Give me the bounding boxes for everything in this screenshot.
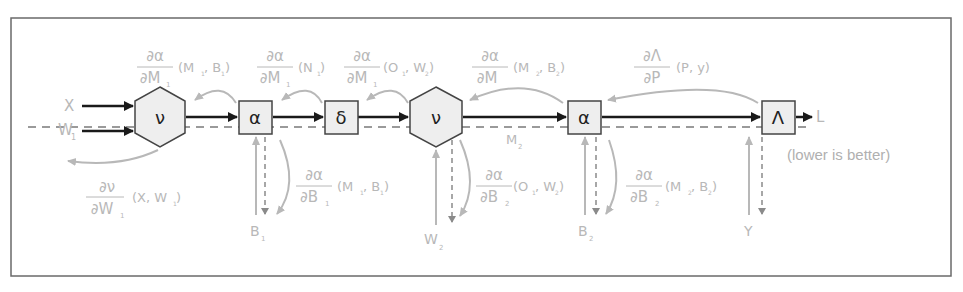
node-lambda-symbol: Λ <box>772 107 785 128</box>
svg-text:∂P: ∂P <box>644 69 661 87</box>
svg-text:∂M: ∂M <box>140 69 161 87</box>
svg-text:∂W: ∂W <box>91 200 114 218</box>
gradient-label-bottom-2: ∂α ∂B 1 (M 1 , B 1 ) <box>296 166 389 208</box>
svg-text:): ) <box>384 179 389 194</box>
svg-text:∂B: ∂B <box>480 188 498 206</box>
svg-text:(M: (M <box>513 60 529 75</box>
svg-text:(M: (M <box>337 179 353 194</box>
backward-arrow-alpha2-to-nu2 <box>470 88 563 103</box>
gradient-label-top-1: ∂α ∂M 1 (M 1 , B 1 ) <box>137 47 230 89</box>
backward-arrow-nu2-to-delta <box>367 91 408 103</box>
svg-text:(P, y): (P, y) <box>676 60 710 75</box>
svg-text:(M: (M <box>178 60 194 75</box>
svg-text:): ) <box>559 179 564 194</box>
gradient-label-bottom-3: ∂α ∂B 2 (O 1 , W 2 ) <box>476 166 564 208</box>
param-b1-label: B <box>250 223 260 239</box>
svg-text:2: 2 <box>655 200 659 208</box>
intermediate-m2-sub: 2 <box>518 143 522 151</box>
svg-text:): ) <box>712 179 717 194</box>
gradient-label-bottom-4: ∂α ∂B 2 (M 2 , B 2 ) <box>626 166 717 208</box>
svg-text:): ) <box>225 60 230 75</box>
svg-text:(M: (M <box>665 179 681 194</box>
svg-text:, B: , B <box>691 179 708 194</box>
svg-text:, W: , W <box>405 60 426 75</box>
input-x-label: X <box>64 97 74 115</box>
svg-text:∂α: ∂α <box>353 47 371 65</box>
param-b1-sub: 1 <box>261 235 265 243</box>
svg-text:∂B: ∂B <box>300 188 318 206</box>
svg-text:1: 1 <box>325 200 329 208</box>
svg-text:): ) <box>176 190 181 205</box>
node-alpha1-symbol: α <box>249 107 261 128</box>
backward-arrow-lambda-to-alpha2 <box>608 90 758 103</box>
param-b2-label: B <box>578 223 588 239</box>
gradient-label-top-5: ∂Λ ∂P (P, y) <box>634 47 710 87</box>
svg-text:1: 1 <box>373 81 377 89</box>
backward-arrow-delta-to-alpha1 <box>282 91 322 103</box>
svg-text:∂α: ∂α <box>481 47 499 65</box>
svg-text:∂α: ∂α <box>485 166 503 184</box>
svg-text:(O: (O <box>513 179 528 194</box>
svg-text:): ) <box>560 60 565 75</box>
output-note: (lower is better) <box>787 146 890 163</box>
svg-text:): ) <box>429 60 434 75</box>
node-delta-symbol: δ <box>335 107 346 128</box>
svg-text:, B: , B <box>204 60 221 75</box>
param-w2-sub: 2 <box>439 244 443 252</box>
svg-text:∂M: ∂M <box>260 69 281 87</box>
input-w1-sub: 1 <box>71 133 76 142</box>
backward-arrow-nu2-to-w2 <box>460 140 470 216</box>
svg-text:1: 1 <box>286 81 290 89</box>
gradient-label-bottom-1: ∂ν ∂W 1 (X, W 1 ) <box>86 178 181 220</box>
gradient-label-top-3: ∂α ∂M 1 (O 1 , W 2 ) <box>344 47 434 89</box>
svg-text:(O: (O <box>383 60 398 75</box>
target-y-label: Y <box>743 223 753 239</box>
backward-arrow-nu1-to-w1 <box>68 150 158 163</box>
svg-text:∂α: ∂α <box>305 166 323 184</box>
svg-text:2: 2 <box>505 200 509 208</box>
svg-text:1: 1 <box>166 81 170 89</box>
svg-text:∂α: ∂α <box>146 47 164 65</box>
param-b2-sub: 2 <box>589 235 593 243</box>
svg-text:∂α: ∂α <box>635 166 653 184</box>
svg-text:∂B: ∂B <box>630 188 648 206</box>
svg-text:(N: (N <box>298 60 313 75</box>
param-w2-label: W <box>424 231 438 247</box>
svg-text:, W: , W <box>535 179 556 194</box>
svg-text:(X, W: (X, W <box>132 190 167 205</box>
computation-graph-diagram: ν α δ ν α Λ X W 1 L (lower is better) M … <box>0 0 963 292</box>
svg-text:∂M: ∂M <box>347 69 368 87</box>
output-label: L <box>816 108 825 126</box>
svg-text:∂ν: ∂ν <box>99 178 115 196</box>
node-nu1-symbol: ν <box>155 107 165 128</box>
svg-text:∂M: ∂M <box>477 69 498 87</box>
gradient-label-top-4: ∂α ∂M (M 2 , B 2 ) <box>472 47 565 87</box>
backward-arrow-alpha1-to-nu1 <box>195 91 236 103</box>
node-alpha2-symbol: α <box>578 107 590 128</box>
svg-text:1: 1 <box>120 212 124 220</box>
svg-text:∂Λ: ∂Λ <box>643 47 662 65</box>
svg-text:): ) <box>320 60 325 75</box>
gradient-label-top-2: ∂α ∂M 1 (N 1 ) <box>257 47 325 89</box>
svg-text:, B: , B <box>363 179 380 194</box>
node-nu2-symbol: ν <box>431 107 441 128</box>
intermediate-m2-label: M <box>506 132 517 147</box>
backward-arrow-alpha1-to-b1 <box>277 140 289 214</box>
svg-text:, B: , B <box>539 60 556 75</box>
backward-arrow-alpha2-to-b2 <box>606 140 616 214</box>
svg-text:∂α: ∂α <box>266 47 284 65</box>
